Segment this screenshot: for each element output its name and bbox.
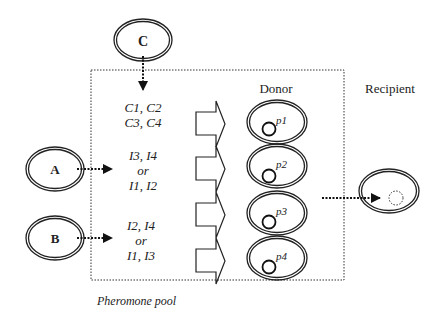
pheromone-text: I1, I2	[128, 178, 158, 193]
transferred-plasmid-icon	[389, 191, 403, 205]
pheromone-text: I3, I4	[128, 148, 158, 163]
recipient-label: Recipient	[365, 81, 415, 96]
pheromone-text: or	[135, 233, 148, 248]
pheromone-text: I1, I3	[126, 248, 156, 263]
pheromone-group-c: C1, C2 C3, C4	[125, 100, 162, 130]
pheromone-text: C1, C2	[125, 100, 162, 115]
diagram: C A B C1, C2 C3, C4 I3, I4 or I1, I2 I2,…	[0, 0, 436, 315]
donor-cell-2: p2	[247, 144, 307, 188]
pheromone-group-b: I2, I4 or I1, I3	[126, 218, 156, 263]
donor-cell-1: p1	[247, 100, 307, 144]
plasmid-label: p2	[275, 158, 288, 170]
recipient-cell	[359, 169, 419, 213]
pheromone-pool-label: Pheromone pool	[96, 294, 177, 308]
source-c: C	[114, 19, 172, 61]
block-arrows	[196, 101, 225, 284]
block-arrow-1	[196, 101, 225, 147]
plasmid-icon	[263, 170, 276, 183]
plasmid-icon	[263, 123, 276, 136]
pheromone-text: or	[137, 163, 150, 178]
source-a-label: A	[50, 162, 60, 177]
source-c-label: C	[138, 34, 148, 49]
pheromone-text: C3, C4	[125, 115, 162, 130]
pheromone-group-a: I3, I4 or I1, I2	[128, 148, 158, 193]
donor-cell-4: p4	[247, 236, 307, 280]
source-b: B	[26, 216, 84, 260]
pheromone-text: I2, I4	[126, 218, 156, 233]
plasmid-label: p3	[275, 205, 288, 217]
block-arrow-2	[196, 146, 225, 192]
plasmid-label: p1	[275, 114, 287, 126]
block-arrow-3	[196, 192, 225, 238]
plasmid-icon	[263, 261, 276, 274]
donor-label: Donor	[259, 81, 293, 96]
source-b-label: B	[51, 231, 60, 246]
source-a: A	[26, 147, 84, 191]
plasmid-label: p4	[275, 250, 288, 262]
block-arrow-4	[196, 238, 225, 284]
plasmid-icon	[263, 216, 276, 229]
donor-cell-3: p3	[247, 191, 307, 235]
